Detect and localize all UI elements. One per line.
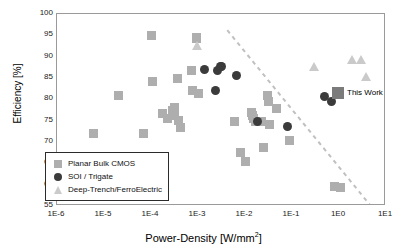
y-tick-label: 75: [27, 116, 53, 124]
x-tick-label: 1E-2: [224, 210, 264, 218]
circle-marker-icon: [51, 173, 64, 181]
legend-item-circle[interactable]: SOI / Trigate: [51, 170, 162, 183]
data-point-triangle: [309, 62, 319, 71]
data-point-circle: [232, 71, 241, 80]
data-point-square: [272, 104, 281, 113]
x-axis-tick-labels: 1E-61E-51E-41E-31E-21E-11E01E1: [0, 210, 407, 222]
legend-item-label: Deep-Trench/FerroElectric: [68, 185, 162, 194]
efficiency-vs-power-density-chart: Efficiency [%] 100959085807570656055 Thi…: [0, 0, 407, 252]
y-tick-label: 70: [27, 137, 53, 145]
data-point-square: [139, 129, 148, 138]
data-point-square: [230, 117, 239, 126]
x-axis-title-tail: ]: [259, 232, 262, 244]
legend-item-label: SOI / Trigate: [68, 172, 113, 181]
legend: Planar Bulk CMOSSOI / TrigateDeep-Trench…: [45, 152, 169, 201]
data-point-square: [170, 103, 179, 112]
legend-item-triangle[interactable]: Deep-Trench/FerroElectric: [51, 183, 162, 196]
x-axis-title-base: Power-Density [W/mm: [145, 232, 254, 244]
x-axis-title: Power-Density [W/mm2]: [0, 229, 407, 244]
x-tick-label: 1E-3: [177, 210, 217, 218]
this-work-annotation: This Work: [347, 88, 383, 97]
data-point-square: [173, 74, 182, 83]
data-point-circle: [211, 86, 220, 95]
x-tick-label: 1E-5: [83, 210, 123, 218]
x-tick-label: 1E0: [318, 210, 358, 218]
x-tick-label: 1E-6: [36, 210, 76, 218]
data-point-circle: [200, 65, 209, 74]
data-point-square: [285, 136, 294, 145]
data-point-square: [336, 183, 345, 192]
y-tick-label: 85: [27, 73, 53, 81]
data-point-circle: [253, 117, 262, 126]
data-point-triangle: [356, 55, 366, 64]
y-tick-label: 95: [27, 30, 53, 38]
legend-item-square[interactable]: Planar Bulk CMOS: [51, 157, 162, 170]
y-tick-label: 90: [27, 52, 53, 60]
data-point-square-large: [332, 87, 344, 99]
x-tick-label: 1E1: [365, 210, 405, 218]
data-point-square: [148, 77, 157, 86]
data-point-square: [236, 148, 245, 157]
x-tick-label: 1E-1: [271, 210, 311, 218]
y-tick-label: 80: [27, 94, 53, 102]
data-point-square: [241, 157, 250, 166]
data-point-circle: [217, 62, 226, 71]
data-point-square: [187, 66, 196, 75]
y-tick-label: 100: [27, 9, 53, 17]
square-marker-icon: [51, 160, 64, 168]
data-point-square: [147, 31, 156, 40]
legend-item-label: Planar Bulk CMOS: [68, 159, 135, 168]
y-tick-label: 55: [27, 201, 53, 209]
data-point-circle: [283, 122, 292, 131]
x-tick-label: 1E-4: [130, 210, 170, 218]
triangle-marker-icon: [51, 186, 64, 194]
data-point-square: [176, 123, 185, 132]
data-point-square: [259, 143, 268, 152]
data-point-triangle: [361, 72, 371, 81]
y-axis-title: Efficiency [%]: [12, 29, 23, 159]
data-point-square: [89, 129, 98, 138]
data-point-square: [194, 89, 203, 98]
data-point-square: [114, 91, 123, 100]
data-point-square: [265, 120, 274, 129]
data-point-triangle: [192, 41, 202, 50]
